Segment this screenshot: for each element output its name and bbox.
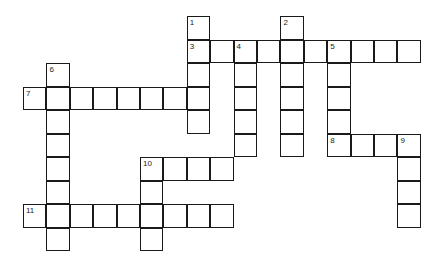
crossword-cell[interactable]: 11 bbox=[23, 204, 46, 228]
crossword-cell[interactable] bbox=[351, 134, 374, 158]
crossword-cell[interactable]: 6 bbox=[46, 63, 69, 87]
clue-number: 10 bbox=[143, 159, 152, 168]
crossword-cell[interactable] bbox=[187, 63, 210, 87]
crossword-cell[interactable] bbox=[234, 87, 257, 111]
crossword-cell[interactable]: 3 bbox=[187, 40, 210, 64]
crossword-cell[interactable]: 10 bbox=[140, 157, 163, 181]
crossword-cell[interactable] bbox=[304, 40, 327, 64]
crossword-cell[interactable] bbox=[93, 204, 116, 228]
crossword-cell[interactable]: 8 bbox=[327, 134, 350, 158]
crossword-cell[interactable] bbox=[46, 204, 69, 228]
crossword-cell[interactable] bbox=[140, 87, 163, 111]
crossword-cell[interactable] bbox=[163, 204, 186, 228]
crossword-cell[interactable] bbox=[280, 134, 303, 158]
crossword-cell[interactable] bbox=[234, 134, 257, 158]
clue-number: 1 bbox=[190, 18, 194, 27]
crossword-cell[interactable] bbox=[140, 228, 163, 252]
crossword-cell[interactable] bbox=[187, 87, 210, 111]
crossword-cell[interactable] bbox=[117, 87, 140, 111]
crossword-cell[interactable]: 4 bbox=[234, 40, 257, 64]
clue-number: 5 bbox=[330, 42, 334, 51]
crossword-cell[interactable] bbox=[374, 134, 397, 158]
crossword-cell[interactable]: 9 bbox=[397, 134, 420, 158]
crossword-cell[interactable] bbox=[280, 87, 303, 111]
crossword-cell[interactable] bbox=[397, 181, 420, 205]
crossword-cell[interactable] bbox=[117, 204, 140, 228]
crossword-cell[interactable] bbox=[210, 157, 233, 181]
crossword-cell[interactable] bbox=[140, 204, 163, 228]
crossword-cell[interactable] bbox=[210, 40, 233, 64]
crossword-cell[interactable] bbox=[327, 63, 350, 87]
clue-number: 9 bbox=[400, 136, 404, 145]
crossword-cell[interactable] bbox=[234, 63, 257, 87]
clue-number: 4 bbox=[237, 42, 241, 51]
crossword-cell[interactable]: 2 bbox=[280, 16, 303, 40]
crossword-cell[interactable] bbox=[210, 204, 233, 228]
crossword-cell[interactable] bbox=[327, 87, 350, 111]
crossword-grid: 1324586791011 bbox=[0, 0, 445, 266]
crossword-cell[interactable] bbox=[163, 157, 186, 181]
crossword-cell[interactable] bbox=[280, 63, 303, 87]
crossword-cell[interactable] bbox=[351, 40, 374, 64]
crossword-cell[interactable] bbox=[257, 40, 280, 64]
crossword-cell[interactable] bbox=[397, 157, 420, 181]
crossword-cell[interactable] bbox=[46, 157, 69, 181]
crossword-cell[interactable] bbox=[46, 110, 69, 134]
crossword-cell[interactable] bbox=[46, 181, 69, 205]
clue-number: 3 bbox=[190, 42, 194, 51]
crossword-cell[interactable] bbox=[70, 204, 93, 228]
crossword-cell[interactable] bbox=[140, 181, 163, 205]
crossword-cell[interactable] bbox=[280, 110, 303, 134]
crossword-cell[interactable] bbox=[397, 204, 420, 228]
crossword-cell[interactable] bbox=[163, 87, 186, 111]
crossword-cell[interactable]: 5 bbox=[327, 40, 350, 64]
crossword-cell[interactable] bbox=[187, 204, 210, 228]
clue-number: 7 bbox=[26, 89, 30, 98]
crossword-cell[interactable] bbox=[327, 110, 350, 134]
clue-number: 8 bbox=[330, 136, 334, 145]
crossword-cell[interactable] bbox=[374, 40, 397, 64]
crossword-cell[interactable]: 1 bbox=[187, 16, 210, 40]
crossword-cell[interactable] bbox=[187, 110, 210, 134]
clue-number: 6 bbox=[49, 65, 53, 74]
crossword-cell[interactable] bbox=[70, 87, 93, 111]
crossword-cell[interactable] bbox=[46, 87, 69, 111]
crossword-cell[interactable]: 7 bbox=[23, 87, 46, 111]
crossword-cell[interactable] bbox=[234, 110, 257, 134]
clue-number: 11 bbox=[26, 206, 34, 215]
crossword-cell[interactable] bbox=[280, 40, 303, 64]
crossword-cell[interactable] bbox=[187, 157, 210, 181]
crossword-cell[interactable] bbox=[46, 134, 69, 158]
clue-number: 2 bbox=[283, 18, 287, 27]
crossword-cell[interactable] bbox=[397, 40, 420, 64]
crossword-cell[interactable] bbox=[93, 87, 116, 111]
crossword-cell[interactable] bbox=[46, 228, 69, 252]
